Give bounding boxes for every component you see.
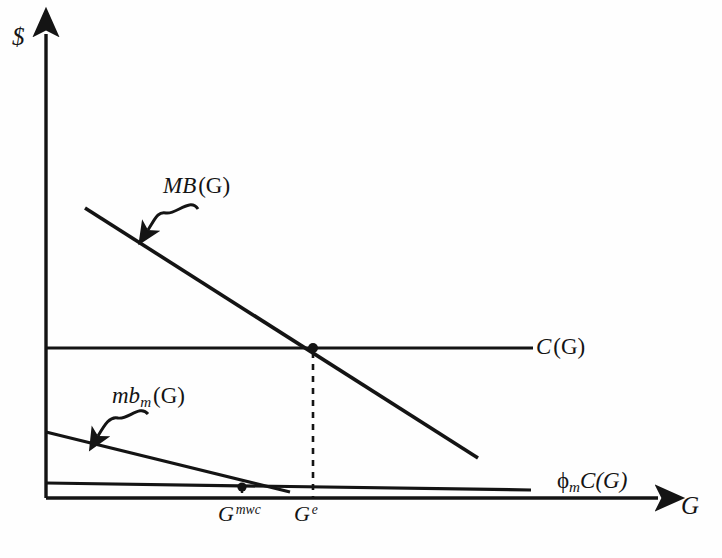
annotation-arrow-mb	[148, 205, 198, 230]
curve-label-mbm-subscript: m	[140, 393, 151, 410]
economics-diagram-figure: $ G MB (G) mbm (G) C (G) ϕmC(G) G mwc G …	[0, 0, 722, 558]
curve-label-mbm-main: mb	[112, 383, 140, 408]
annotation-arrow-mbm	[98, 411, 148, 436]
curve-label-mb-m-of-g: mbm (G)	[112, 384, 185, 409]
equilibrium-point-marker	[308, 343, 318, 353]
curve-label-mb-main: MB	[163, 173, 196, 198]
curve-label-cg-arg: (G)	[553, 334, 585, 359]
curve-phi-m-c-of-g	[46, 483, 531, 490]
curve-label-phi-m-c-of-g: ϕmC(G)	[557, 469, 627, 494]
curve-label-mb-arg: (G)	[198, 173, 230, 198]
tick-label-g-e-base: G	[294, 501, 310, 526]
tick-label-g-mwc: G mwc	[218, 503, 261, 525]
curve-label-c-of-g: C (G)	[536, 335, 585, 358]
tick-label-g-mwc-base: G	[218, 501, 234, 526]
tick-label-g-e-superscript: e	[312, 502, 318, 517]
phi-symbol: ϕ	[557, 468, 569, 493]
phi-subscript: m	[569, 478, 580, 495]
mwc-point-marker	[237, 482, 246, 491]
x-axis-label: G	[681, 493, 699, 518]
curve-label-mbm-arg: (G)	[153, 383, 185, 408]
tick-label-g-mwc-superscript: mwc	[236, 502, 261, 517]
curve-label-phicg-main: C(G)	[580, 468, 627, 493]
curve-mb-of-g	[85, 208, 478, 458]
tick-label-g-e: G e	[294, 503, 318, 525]
curve-label-mb-of-g: MB (G)	[163, 174, 230, 197]
y-axis-label: $	[12, 24, 25, 49]
curve-label-cg-main: C	[536, 334, 551, 359]
